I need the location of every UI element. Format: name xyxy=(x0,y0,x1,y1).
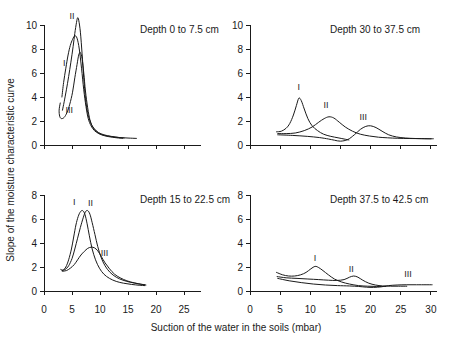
x-tick-label: 15 xyxy=(335,304,347,315)
y-tick-label: 4 xyxy=(31,238,37,249)
x-tick-label: 25 xyxy=(178,304,190,315)
x-tick-label: 30 xyxy=(425,304,437,315)
y-tick-label: 2 xyxy=(237,116,243,127)
y-axis-title-text: Slope of the moisture characteristic cur… xyxy=(5,78,16,262)
curve-label-i: I xyxy=(298,82,301,92)
curve-label-ii: II xyxy=(69,11,74,21)
x-tick-label: 10 xyxy=(305,304,317,315)
x-tick-label: 0 xyxy=(41,304,47,315)
curve-label-iii: III xyxy=(65,105,73,115)
y-tick-label: 0 xyxy=(31,140,37,151)
curve-label-ii: II xyxy=(349,264,354,274)
y-tick-label: 10 xyxy=(26,20,38,31)
x-tick-label: 25 xyxy=(395,304,407,315)
panel-title: Depth 15 to 22.5 cm xyxy=(140,194,230,205)
curve-label-i: I xyxy=(73,197,76,207)
curve-label-iii: III xyxy=(404,269,412,279)
y-tick-label: 6 xyxy=(237,214,243,225)
y-tick-label: 6 xyxy=(31,214,37,225)
y-tick-label: 0 xyxy=(237,140,243,151)
y-tick-label: 6 xyxy=(237,68,243,79)
panel-title: Depth 0 to 7.5 cm xyxy=(140,24,219,35)
y-tick-label: 8 xyxy=(237,44,243,55)
y-axis-title: Slope of the moisture characteristic cur… xyxy=(5,78,16,262)
x-tick-label: 20 xyxy=(150,304,162,315)
y-tick-label: 8 xyxy=(237,190,243,201)
x-tick-label: 0 xyxy=(247,304,253,315)
x-tick-label: 15 xyxy=(122,304,134,315)
x-tick-label: 20 xyxy=(365,304,377,315)
figure-background xyxy=(0,0,456,339)
y-tick-label: 10 xyxy=(232,20,244,31)
y-tick-label: 2 xyxy=(31,262,37,273)
curve-label-iii: III xyxy=(360,112,368,122)
curve-label-ii: II xyxy=(88,198,93,208)
x-axis-title-text: Suction of the water in the soils (mbar) xyxy=(151,322,322,333)
y-tick-label: 8 xyxy=(31,44,37,55)
curve-label-i: I xyxy=(63,58,66,68)
x-tick-label: 5 xyxy=(277,304,283,315)
y-tick-label: 0 xyxy=(31,286,37,297)
x-tick-label: 10 xyxy=(94,304,106,315)
panel-title: Depth 37.5 to 42.5 cm xyxy=(330,194,428,205)
y-tick-label: 8 xyxy=(31,190,37,201)
y-tick-label: 4 xyxy=(237,238,243,249)
x-tick-label: 5 xyxy=(69,304,75,315)
x-axis-title: Suction of the water in the soils (mbar) xyxy=(151,322,322,333)
y-tick-label: 4 xyxy=(237,92,243,103)
curve-label-ii: II xyxy=(323,100,328,110)
y-tick-label: 4 xyxy=(31,92,37,103)
y-tick-label: 2 xyxy=(237,262,243,273)
panel-title: Depth 30 to 37.5 cm xyxy=(330,24,420,35)
curve-label-iii: III xyxy=(101,248,109,258)
curve-label-i: I xyxy=(314,253,317,263)
moisture-characteristic-slope-figure: Slope of the moisture characteristic cur… xyxy=(0,0,456,339)
y-tick-label: 0 xyxy=(237,286,243,297)
y-tick-label: 6 xyxy=(31,68,37,79)
y-tick-label: 2 xyxy=(31,116,37,127)
